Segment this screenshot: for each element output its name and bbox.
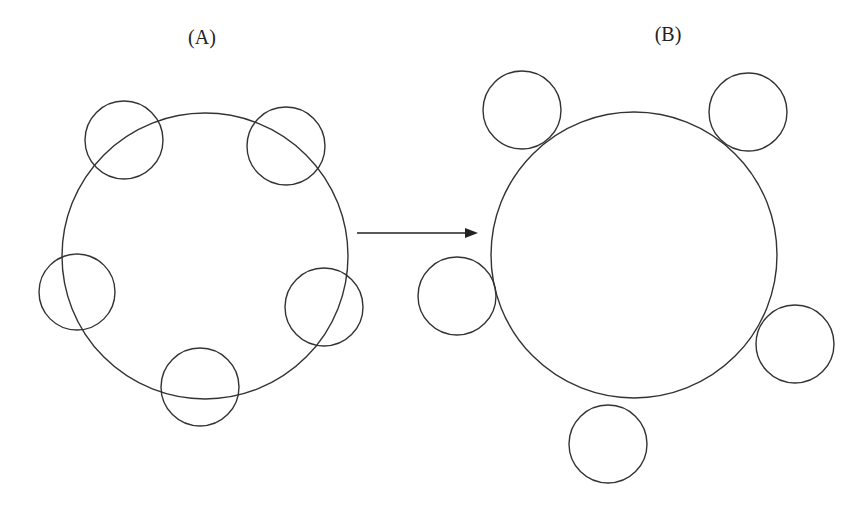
small-circle: [569, 405, 647, 483]
diagram-canvas: (A) (B): [0, 0, 866, 511]
small-circle: [418, 257, 496, 335]
large-circle: [491, 112, 777, 398]
panel-a-overlapping-circles: [39, 101, 363, 426]
small-circle: [756, 305, 834, 383]
panel-label-a: (A): [188, 26, 216, 49]
panel-b-tangent-circles: [418, 71, 834, 483]
small-circle: [85, 101, 163, 179]
small-circle: [161, 348, 239, 426]
small-circle: [709, 73, 787, 151]
arrow-head-icon: [465, 228, 478, 238]
large-circle: [62, 113, 348, 399]
transition-arrow: [357, 228, 478, 238]
small-circle: [483, 71, 561, 149]
diagram-svg: [0, 0, 866, 511]
small-circle: [247, 107, 325, 185]
panel-label-b: (B): [655, 23, 682, 46]
